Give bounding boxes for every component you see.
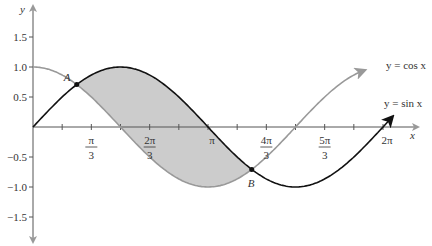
point-A xyxy=(74,82,79,87)
x-tick-label: π xyxy=(89,134,95,146)
y-tick-label: −1.0 xyxy=(7,181,27,193)
y-tick-label: −1.5 xyxy=(7,211,27,223)
labels: 1.51.00.5−0.5−1.0−1.5π32π3π4π35π32πyxABy… xyxy=(7,3,427,223)
x-tick-label: 2π xyxy=(381,134,393,146)
x-tick-label: 5π xyxy=(319,134,331,146)
point-label-a: A xyxy=(63,71,71,83)
svg-text:3: 3 xyxy=(264,149,270,161)
y-tick-label: 0.5 xyxy=(13,91,27,103)
point-B xyxy=(249,167,254,172)
axes xyxy=(29,6,418,242)
svg-text:3: 3 xyxy=(322,149,328,161)
sin-legend: y = sin x xyxy=(384,97,423,109)
point-label-b: B xyxy=(248,177,255,189)
trig-chart: 1.51.00.5−0.5−1.0−1.5π32π3π4π35π32πyxABy… xyxy=(0,0,432,246)
x-axis-label: x xyxy=(409,129,415,141)
svg-text:3: 3 xyxy=(147,149,153,161)
x-tick-label: 4π xyxy=(261,134,273,146)
x-tick-label: π xyxy=(209,134,215,146)
x-tick-label: 2π xyxy=(144,134,156,146)
y-axis-label: y xyxy=(19,3,25,15)
y-tick-label: −0.5 xyxy=(7,151,27,163)
y-tick-label: 1.0 xyxy=(13,61,27,73)
y-tick-label: 1.5 xyxy=(13,31,27,43)
cos-legend: y = cos x xyxy=(386,59,427,71)
svg-text:3: 3 xyxy=(89,149,95,161)
